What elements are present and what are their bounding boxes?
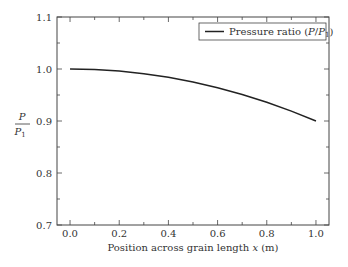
x-tick-label: 1.0 [308,228,324,239]
x-tick-labels: 0.00.20.40.60.81.0 [62,228,324,239]
x-tick-label: 0.0 [62,228,78,239]
y-tick-label: 0.9 [36,116,52,127]
x-tick-label: 0.2 [111,228,127,239]
legend: Pressure ratio (P/P1) [199,23,333,40]
y-axis-title: P P1 [13,111,30,139]
y-tick-labels: 0.70.80.91.01.1 [36,12,52,231]
y-tick-label: 0.7 [36,220,52,231]
major-ticks [57,17,329,225]
minor-ticks [57,17,329,225]
y-axis-title-numerator: P [18,111,26,122]
y-tick-label: 1.0 [36,64,52,75]
line-chart: 0.00.20.40.60.81.0 0.70.80.91.01.1 Press… [0,0,348,267]
x-tick-label: 0.8 [259,228,275,239]
x-axis-title: Position across grain length x (m) [107,242,278,253]
y-axis-title-denominator: P1 [13,126,25,139]
pressure-ratio-line [70,69,316,121]
x-tick-label: 0.4 [160,228,176,239]
x-tick-label: 0.6 [210,228,226,239]
y-tick-label: 0.8 [36,168,52,179]
plot-frame [57,17,329,225]
y-tick-label: 1.1 [36,12,52,23]
